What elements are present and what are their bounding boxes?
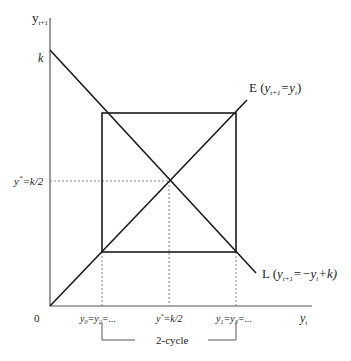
origin-label: 0 bbox=[34, 312, 40, 324]
line-L bbox=[50, 50, 256, 273]
y-axis-label: yt+1 bbox=[32, 10, 48, 27]
line-L-label: L (yt+1=−yt+k) bbox=[262, 266, 337, 283]
two-cycle-bracket bbox=[102, 322, 135, 340]
y1-tick-label: y1=y3=... bbox=[215, 313, 252, 325]
line-E-label: E (yt+1=yt) bbox=[249, 80, 301, 97]
line-E bbox=[50, 100, 247, 306]
y0-tick-label: y0=y2=... bbox=[79, 313, 116, 325]
x-axis-label: yt bbox=[299, 311, 308, 327]
two-cycle-diagram: yt+1 k y*=k/2 0 y0=y2=... y*=k/2 y1=y3=.… bbox=[0, 0, 351, 361]
two-cycle-label: 2-cycle bbox=[156, 334, 188, 346]
k-tick-label: k bbox=[38, 51, 44, 65]
ystar-x-tick-label: y*=k/2 bbox=[155, 313, 182, 324]
ystar-tick-label: y*=k/2 bbox=[13, 174, 44, 187]
